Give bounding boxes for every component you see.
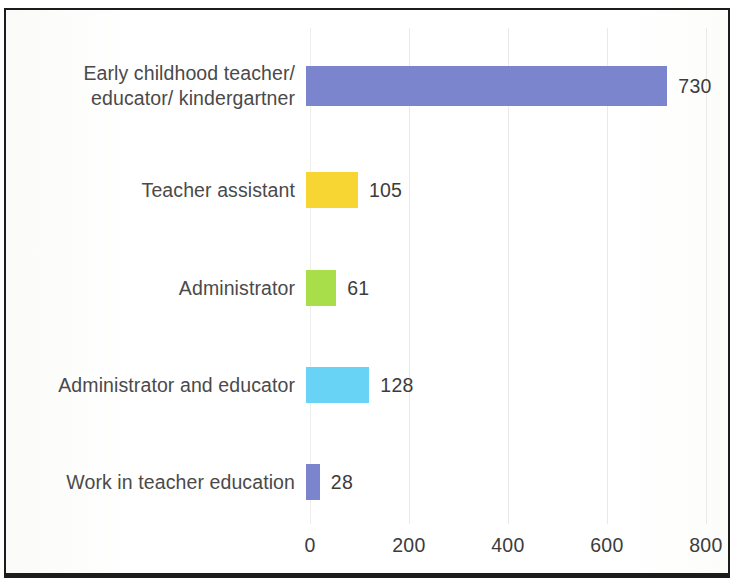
- bar-row: Administrator 61: [6, 240, 728, 336]
- bar-row: Administrator and educator 128: [6, 337, 728, 433]
- bar-row: Teacher assistant 105: [6, 142, 728, 238]
- bar-administrator[interactable]: [306, 270, 336, 306]
- x-tick-label: 0: [304, 534, 315, 557]
- x-tick-label: 200: [392, 534, 426, 557]
- bar-group: 61: [306, 270, 369, 306]
- plot-area: Early childhood teacher/ educator/ kinde…: [6, 10, 728, 576]
- bar-group: 28: [306, 464, 353, 500]
- bar-administrator-and-educator[interactable]: [306, 367, 369, 403]
- x-tick-label: 800: [689, 534, 723, 557]
- bar-row: Work in teacher education 28: [6, 434, 728, 530]
- chart-frame: Early childhood teacher/ educator/ kinde…: [4, 8, 730, 578]
- bar-group: 105: [306, 172, 402, 208]
- bar-teacher-assistant[interactable]: [306, 172, 358, 208]
- category-label: Work in teacher education: [35, 470, 295, 495]
- bar-value-label: 730: [678, 75, 711, 98]
- x-tick-label: 400: [491, 534, 525, 557]
- x-axis: 0 200 400 600 800: [6, 526, 728, 566]
- category-label: Early childhood teacher/ educator/ kinde…: [35, 61, 295, 111]
- category-label: Administrator and educator: [35, 373, 295, 398]
- bar-value-label: 105: [369, 179, 402, 202]
- bar-group: 730: [306, 66, 711, 106]
- bar-value-label: 61: [347, 277, 369, 300]
- bar-value-label: 28: [331, 471, 353, 494]
- bar-value-label: 128: [380, 374, 413, 397]
- x-tick-label: 600: [590, 534, 624, 557]
- bar-row: Early childhood teacher/ educator/ kinde…: [6, 38, 728, 134]
- category-label: Administrator: [35, 276, 295, 301]
- axis-baseline: [6, 573, 728, 576]
- bar-work-in-teacher-education[interactable]: [306, 464, 320, 500]
- bar-early-childhood-teacher[interactable]: [306, 66, 667, 106]
- bar-group: 128: [306, 367, 414, 403]
- category-label: Teacher assistant: [35, 178, 295, 203]
